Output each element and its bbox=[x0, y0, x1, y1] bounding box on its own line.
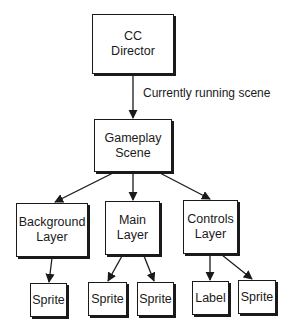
edge-gameplay-background bbox=[55, 172, 115, 202]
edge-controls-sprite bbox=[222, 255, 252, 279]
edge-main-sprite1 bbox=[108, 256, 122, 281]
edge-label-currently-running-scene: Currently running scene bbox=[143, 86, 270, 100]
node-cc-director: CC Director bbox=[92, 14, 174, 74]
node-controls-sprite: Sprite bbox=[238, 280, 276, 314]
node-gameplay-scene: Gameplay Scene bbox=[94, 119, 172, 172]
node-main-sprite-1: Sprite bbox=[88, 282, 127, 316]
node-controls-label: Label bbox=[192, 281, 229, 315]
edge-main-sprite2 bbox=[144, 256, 154, 281]
node-main-layer: Main Layer bbox=[105, 201, 160, 255]
node-controls-layer: Controls Layer bbox=[183, 200, 238, 254]
edge-gameplay-controls bbox=[158, 172, 210, 199]
edge-background-sprite bbox=[49, 258, 52, 282]
node-background-sprite: Sprite bbox=[30, 283, 67, 317]
node-main-sprite-2: Sprite bbox=[137, 282, 174, 316]
node-background-layer: Background Layer bbox=[16, 203, 88, 257]
